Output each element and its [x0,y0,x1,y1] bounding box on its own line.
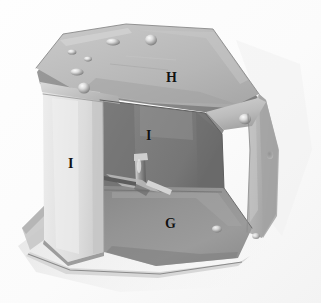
bolt-highlight [137,159,141,173]
part-label-g: G [165,217,176,231]
rivet-top-right [145,35,157,46]
rivet-floor-front [212,226,222,233]
rivet-right-bottom [252,233,260,239]
rivet-top-lower-left [70,68,83,75]
part-label-h: H [166,71,177,85]
part-label-i-back: I [146,129,151,143]
rivet-right-flange [239,114,251,124]
left-panel-right-shade [92,101,104,254]
rivet-top-center [106,38,120,45]
rivet-front-flange [78,82,90,93]
left-panel-sheen [52,98,79,254]
photo-figure: H I I G [0,0,321,303]
bracket-photograph [0,0,321,303]
part-label-i-left: I [68,157,73,171]
right-panel-dimple [267,151,273,159]
rivet-top-mid-small [84,57,92,62]
rivet-top-left-small [68,49,77,54]
bolt-head [134,153,148,161]
bottom-floor-panel [103,186,252,266]
